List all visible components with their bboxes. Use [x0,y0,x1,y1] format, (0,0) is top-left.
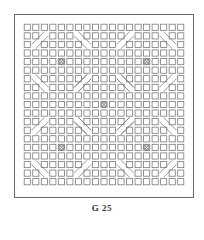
figure-caption: G 25 [0,203,204,213]
lattice-pattern [23,23,185,186]
